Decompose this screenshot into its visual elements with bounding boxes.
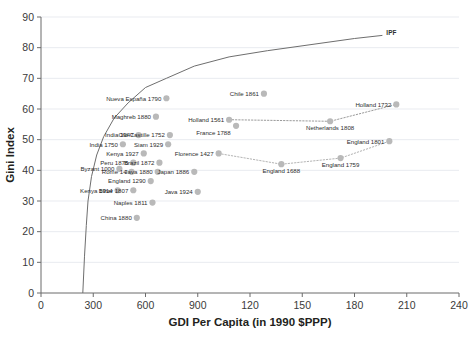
data-point-label: Java 1880 <box>125 168 154 175</box>
data-point-marker[interactable] <box>153 114 159 120</box>
y-tick-label: 20 <box>22 225 34 237</box>
data-point-label: India 1750 <box>89 141 118 148</box>
data-point-label: Chile 1861 <box>230 90 260 97</box>
data-point-marker[interactable] <box>165 141 171 147</box>
data-point-marker[interactable] <box>226 117 232 123</box>
data-point-label: Holland 1732 <box>355 101 392 108</box>
data-point-label: Siam 1929 <box>134 141 164 148</box>
y-tick-label: 50 <box>22 133 34 145</box>
data-point-label: England 1801 <box>347 138 385 145</box>
data-point-label: Old Castille 1752 <box>118 131 165 138</box>
data-point-label: England 1688 <box>263 167 301 174</box>
chart-canvas: 0102030405060708090030060090012015018021… <box>0 0 469 337</box>
x-tick-label: 150 <box>293 299 311 311</box>
data-point-marker[interactable] <box>149 199 155 205</box>
connector-england-series <box>219 141 390 164</box>
data-point-marker[interactable] <box>134 215 140 221</box>
data-point-marker[interactable] <box>167 132 173 138</box>
data-point-label: Brazil 1872 <box>124 159 155 166</box>
y-axis-title: Gini Index <box>4 127 16 183</box>
data-point-label: Java 1924 <box>165 188 194 195</box>
data-point-label: Naples 1811 <box>114 199 148 206</box>
data-point-marker[interactable] <box>393 101 399 107</box>
data-point-label: England 1290 <box>108 177 146 184</box>
data-point-label: Nueva España 1790 <box>106 95 162 102</box>
y-tick-label: 70 <box>22 72 34 84</box>
data-point-marker[interactable] <box>233 123 239 129</box>
data-point-label: China 1880 <box>101 214 133 221</box>
y-tick-label: 80 <box>22 41 34 53</box>
data-point-marker[interactable] <box>130 187 136 193</box>
data-point-marker[interactable] <box>261 91 267 97</box>
x-tick-label: 240 <box>450 299 468 311</box>
data-point-label: Kenya 1927 <box>106 150 139 157</box>
data-point-label: Florence 1427 <box>175 150 215 157</box>
data-point-marker[interactable] <box>148 178 154 184</box>
x-tick-label: 900 <box>189 299 207 311</box>
y-tick-label: 30 <box>22 195 34 207</box>
y-tick-label: 10 <box>22 256 34 268</box>
x-tick-label: 120 <box>241 299 259 311</box>
x-tick-label: 600 <box>137 299 155 311</box>
x-tick-label: 180 <box>346 299 364 311</box>
x-tick-label: 300 <box>84 299 102 311</box>
data-point-label: Maghreb 1880 <box>112 113 152 120</box>
x-axis-title: GDI Per Capita (in 1990 $PPP) <box>169 316 332 328</box>
annotation-ipf-label: IPF <box>386 29 396 36</box>
data-point-label: Japan 1886 <box>157 168 189 175</box>
y-tick-label: 0 <box>28 287 34 299</box>
data-point-marker[interactable] <box>141 150 147 156</box>
data-point-label: France 1788 <box>196 129 231 136</box>
data-point-label: Rome 14 <box>102 168 127 175</box>
y-tick-label: 40 <box>22 164 34 176</box>
data-point-marker[interactable] <box>156 160 162 166</box>
data-point-marker[interactable] <box>216 150 222 156</box>
data-point-marker[interactable] <box>386 138 392 144</box>
data-point-label: England 1759 <box>322 161 360 168</box>
data-point-marker[interactable] <box>163 95 169 101</box>
data-point-marker[interactable] <box>120 141 126 147</box>
data-point-label: Netherlands 1808 <box>306 124 355 131</box>
x-tick-label: 0 <box>38 299 44 311</box>
data-point-label: Holland 1561 <box>188 116 225 123</box>
y-tick-label: 60 <box>22 103 34 115</box>
data-point-marker[interactable] <box>195 189 201 195</box>
y-tick-label: 90 <box>22 11 34 23</box>
data-point-marker[interactable] <box>191 169 197 175</box>
x-tick-label: 210 <box>398 299 416 311</box>
gini-ipf-scatter-chart: 0102030405060708090030060090012015018021… <box>0 0 469 337</box>
data-point-label: Bihar 1807 <box>99 187 129 194</box>
